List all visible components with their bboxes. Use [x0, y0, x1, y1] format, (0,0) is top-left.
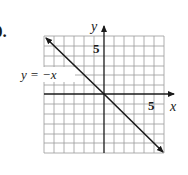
x-tick-5: 5 [148, 98, 155, 113]
coordinate-plane: y x 5 5 y = −x [0, 0, 188, 175]
equation-label: y = −x [19, 67, 57, 82]
x-axis-label: x [169, 99, 177, 114]
y-axis-label: y [89, 19, 98, 34]
y-tick-5: 5 [93, 41, 100, 56]
